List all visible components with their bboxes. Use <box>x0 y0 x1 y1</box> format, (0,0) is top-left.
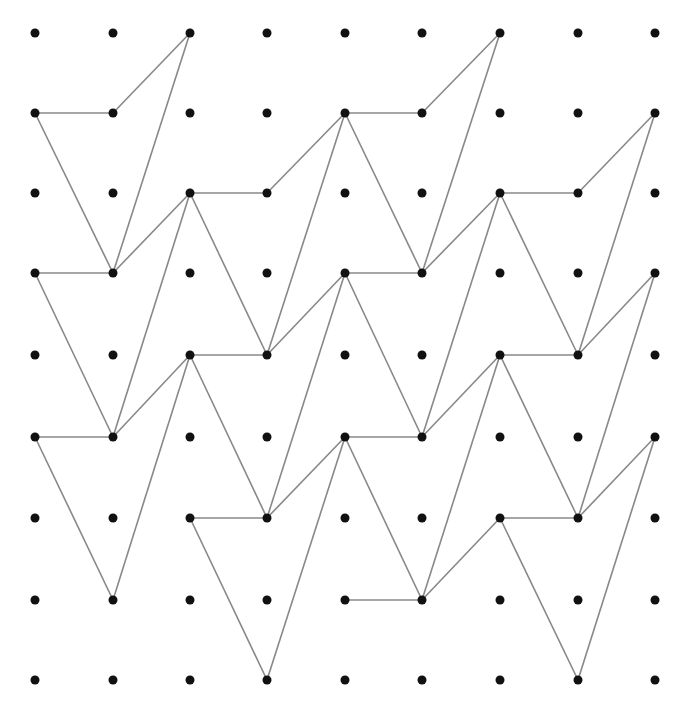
grid-dot <box>574 433 583 442</box>
grid-dot <box>341 596 350 605</box>
grid-dot <box>341 514 350 523</box>
tile-edge <box>578 113 655 355</box>
grid-dot <box>496 109 505 118</box>
tile-edge <box>190 518 267 680</box>
tile-edge <box>422 33 500 113</box>
grid-dot <box>109 433 118 442</box>
grid-dot <box>418 596 427 605</box>
grid-dot <box>341 433 350 442</box>
grid-dot <box>341 189 350 198</box>
tile-edge <box>422 518 500 600</box>
grid-dot <box>186 351 195 360</box>
grid-dot <box>31 29 40 38</box>
grid-dot <box>263 109 272 118</box>
tile-edge <box>422 355 500 437</box>
grid-dot <box>341 109 350 118</box>
grid-dot <box>418 676 427 685</box>
grid-dot <box>651 596 660 605</box>
grid-dot <box>496 29 505 38</box>
grid-dot <box>418 189 427 198</box>
grid-dot <box>186 514 195 523</box>
grid-dot <box>418 433 427 442</box>
tile-edge <box>267 437 345 518</box>
tile-edge <box>578 113 655 193</box>
grid-dot <box>651 351 660 360</box>
grid-dot <box>574 676 583 685</box>
grid-dot <box>574 514 583 523</box>
grid-dot <box>651 676 660 685</box>
tile-edge <box>578 273 655 355</box>
tile-edge <box>345 273 422 437</box>
tile-edge <box>35 273 113 437</box>
grid-dot <box>651 433 660 442</box>
grid-dot <box>186 433 195 442</box>
grid-dot <box>109 109 118 118</box>
tile-edge <box>113 355 190 600</box>
grid-dot <box>109 676 118 685</box>
tile-edge <box>422 193 500 273</box>
grid-dot <box>263 676 272 685</box>
grid-dot <box>496 433 505 442</box>
grid-dot <box>109 269 118 278</box>
grid-dot <box>574 269 583 278</box>
grid-dot <box>109 514 118 523</box>
grid-dot <box>109 596 118 605</box>
grid-dot <box>263 189 272 198</box>
grid-dot <box>341 269 350 278</box>
grid-dot <box>109 29 118 38</box>
grid-dot <box>651 29 660 38</box>
grid-dot <box>31 109 40 118</box>
grid-dot <box>109 351 118 360</box>
tile-edge <box>35 113 113 273</box>
grid-dot <box>31 351 40 360</box>
grid-dot <box>186 109 195 118</box>
tile-edge <box>500 355 578 518</box>
grid-dot <box>263 269 272 278</box>
grid-dot <box>186 596 195 605</box>
grid-dot <box>186 269 195 278</box>
dot-grid-diagram <box>0 0 689 714</box>
grid-dot <box>651 189 660 198</box>
grid-dot <box>496 596 505 605</box>
grid-dot <box>651 269 660 278</box>
grid-dot <box>263 514 272 523</box>
grid-dot <box>341 676 350 685</box>
grid-dot <box>186 676 195 685</box>
grid-dot <box>496 676 505 685</box>
tile-edge <box>422 193 500 437</box>
grid-dot <box>341 351 350 360</box>
grid-dot <box>496 514 505 523</box>
grid-dot <box>31 189 40 198</box>
tile-edge <box>113 33 190 113</box>
grid-dot <box>574 596 583 605</box>
grid-dot <box>31 596 40 605</box>
tile-edge <box>113 355 190 437</box>
tile-edge <box>422 355 500 600</box>
grid-dot <box>418 269 427 278</box>
grid-dot <box>418 29 427 38</box>
grid-dot <box>496 189 505 198</box>
tile-edge <box>578 437 655 680</box>
grid-dot <box>418 109 427 118</box>
grid-dot <box>418 351 427 360</box>
grid-dot <box>574 351 583 360</box>
tile-edge <box>345 113 422 273</box>
tile-edge <box>345 437 422 600</box>
grid-dot <box>186 189 195 198</box>
grid-dot <box>574 109 583 118</box>
grid-dot <box>496 351 505 360</box>
grid-dot <box>651 109 660 118</box>
tile-edge <box>190 193 267 355</box>
tile-edge <box>578 273 655 518</box>
tile-edge <box>267 113 345 193</box>
grid-dot <box>574 29 583 38</box>
tile-edge <box>267 113 345 355</box>
tile-edge <box>422 33 500 273</box>
tile-edge <box>578 437 655 518</box>
tile-edge <box>267 273 345 518</box>
tile-edge <box>267 437 345 680</box>
tile-edge <box>113 193 190 273</box>
tile-edge <box>267 273 345 355</box>
grid-dot <box>263 351 272 360</box>
grid-dot <box>418 514 427 523</box>
